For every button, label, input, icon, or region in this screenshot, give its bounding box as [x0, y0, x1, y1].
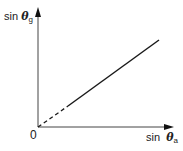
- y-axis-label: sin θg: [4, 10, 33, 24]
- x-label-symbol: θ: [166, 131, 173, 144]
- x-label-prefix: sin: [146, 131, 166, 143]
- solid-line-segment: [68, 40, 159, 106]
- dashed-line-segment: [38, 106, 68, 127]
- x-axis-label: sin θa: [146, 131, 178, 145]
- y-axis-arrow-icon: [35, 7, 41, 17]
- origin-label: 0: [30, 128, 37, 142]
- x-axis-arrow-icon: [164, 124, 174, 130]
- y-label-prefix: sin: [4, 10, 21, 22]
- y-label-subscript: g: [28, 15, 32, 24]
- x-label-subscript: a: [174, 136, 178, 145]
